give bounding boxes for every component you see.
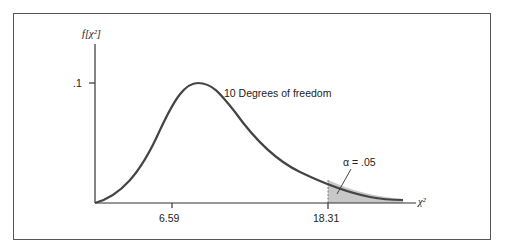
alpha-label: α = .05 (343, 156, 376, 168)
y-axis-label: f[χ²] (82, 28, 101, 39)
x-tick-label-1: 6.59 (159, 212, 179, 224)
x-tick-label-2: 18.31 (313, 212, 339, 224)
y-tick-label: .1 (73, 77, 82, 89)
x-axis-label: χ² (418, 196, 426, 207)
curve-label: 10 Degrees of freedom (224, 87, 331, 99)
chi-square-plot (0, 0, 506, 252)
density-curve (95, 83, 403, 203)
